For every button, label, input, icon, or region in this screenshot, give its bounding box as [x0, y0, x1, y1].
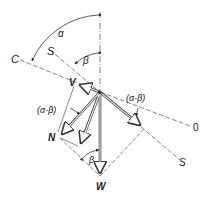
- label-s-lower: S: [179, 157, 186, 168]
- label-o: 0: [193, 122, 199, 133]
- label-alpha: α: [58, 28, 64, 39]
- label-c: C: [11, 53, 19, 65]
- label-n: N: [48, 132, 56, 143]
- alpha-beta-arrow-left: [70, 108, 80, 114]
- label-s-upper: S: [47, 45, 55, 57]
- label-beta-lower: β: [88, 155, 94, 165]
- label-alpha-minus-beta-left: (α-β): [37, 105, 56, 115]
- construction-line-w-s: [100, 129, 144, 176]
- reference-lines: [20, 12, 190, 176]
- construction-line-n-mid: [60, 138, 78, 146]
- diagram-svg: C S S 0 V N W α β β (α-β) (α-β): [0, 0, 211, 200]
- labels: C S S 0 V N W α β β (α-β) (α-β): [11, 28, 199, 192]
- label-beta-upper: β: [82, 55, 89, 66]
- label-alpha-minus-beta-right: (α-β): [126, 93, 145, 103]
- force-diagram: C S S 0 V N W α β β (α-β) (α-β): [0, 0, 211, 200]
- alpha-beta-arrow-right: [136, 108, 138, 116]
- label-w: W: [96, 181, 107, 192]
